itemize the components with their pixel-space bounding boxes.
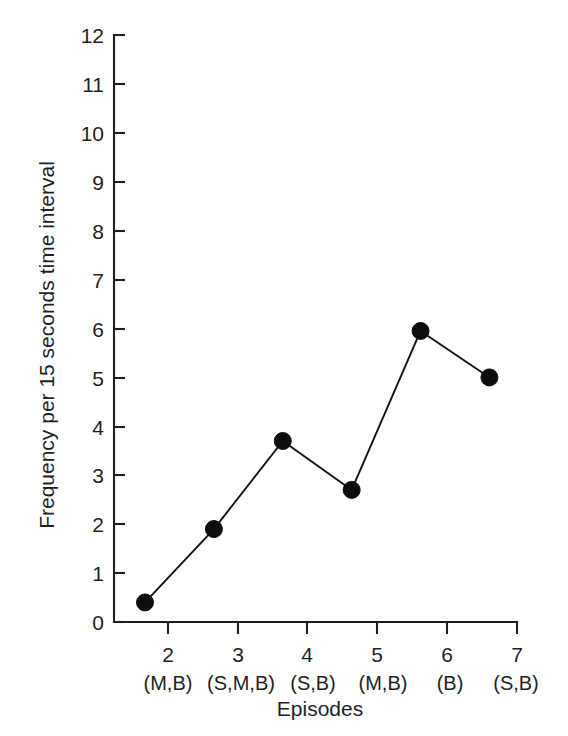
y-tick-label-4: 4: [92, 416, 104, 439]
x-tick-label-5: 5: [371, 643, 383, 666]
data-point-7: [481, 369, 498, 386]
data-point-4: [274, 433, 291, 450]
y-tick-label-9: 9: [92, 171, 104, 194]
data-point-3: [205, 521, 222, 538]
y-tick-label-8: 8: [92, 220, 104, 243]
x-axis-ticks: 2 (M,B) 3 (S,M,B) 4 (S,B) 5 (M,B) 6 (B) …: [144, 622, 539, 694]
data-series-line: [145, 331, 489, 602]
x-tick-label-6: 6: [441, 643, 453, 666]
x-condition-label-5: (M,B): [359, 672, 408, 694]
y-tick-label-2: 2: [92, 513, 104, 536]
data-point-5: [343, 481, 360, 498]
data-point-2: [137, 594, 154, 611]
y-tick-label-3: 3: [92, 464, 104, 487]
y-tick-label-11: 11: [82, 73, 104, 96]
line-chart: Frequency per 15 seconds time interval 0…: [0, 0, 568, 736]
x-tick-label-3: 3: [232, 643, 244, 666]
data-point-markers: [137, 322, 498, 610]
y-axis-ticks: 0 1 2 3 4 5 6 7 8 9 10 11 12: [81, 24, 125, 634]
x-condition-label-4: (S,B): [290, 672, 336, 694]
y-tick-label-10: 10: [81, 122, 104, 145]
y-axis-title: Frequency per 15 seconds time interval: [35, 161, 58, 529]
y-tick-label-5: 5: [92, 367, 104, 390]
x-tick-label-7: 7: [511, 643, 523, 666]
x-condition-label-2: (M,B): [144, 672, 193, 694]
chart-figure: Frequency per 15 seconds time interval 0…: [0, 0, 568, 736]
x-axis-title: Episodes: [277, 697, 363, 720]
y-tick-label-1: 1: [92, 562, 104, 585]
y-tick-label-0: 0: [92, 611, 104, 634]
y-tick-label-6: 6: [92, 318, 104, 341]
y-tick-label-7: 7: [92, 269, 104, 292]
data-point-6: [412, 322, 429, 339]
x-condition-label-3: (S,M,B): [207, 672, 275, 694]
x-tick-label-2: 2: [162, 643, 174, 666]
y-tick-label-12: 12: [81, 24, 104, 47]
x-tick-label-4: 4: [301, 643, 313, 666]
x-condition-label-7: (S,B): [493, 672, 539, 694]
x-condition-label-6: (B): [437, 672, 464, 694]
